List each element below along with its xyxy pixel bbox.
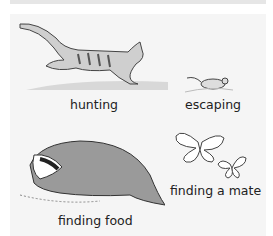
cat-icon [18, 20, 178, 90]
label-finding-food: finding food [58, 213, 133, 228]
label-finding-a-mate: finding a mate [170, 183, 261, 198]
label-hunting: hunting [70, 97, 118, 112]
mouse-icon [185, 72, 235, 94]
butterfly-icon [172, 128, 252, 180]
top-band [10, 0, 266, 4]
badger-icon [20, 135, 165, 210]
label-escaping: escaping [185, 97, 241, 112]
